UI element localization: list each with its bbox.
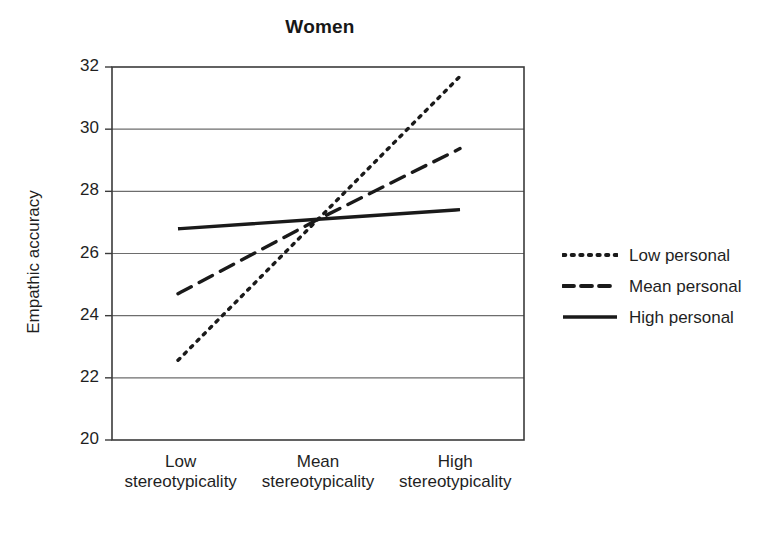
chart-figure: Women Empathic accuracy 32302826242220 L… xyxy=(0,0,777,538)
legend-item[interactable]: Mean personal xyxy=(562,271,741,302)
legend-label: High personal xyxy=(629,308,734,328)
series-line-mean-personal xyxy=(178,149,460,294)
chart-legend: Low personalMean personalHigh personal xyxy=(562,240,741,333)
legend-item[interactable]: High personal xyxy=(562,302,741,333)
legend-swatch-dotted xyxy=(562,254,618,258)
legend-item[interactable]: Low personal xyxy=(562,240,741,271)
legend-label: Low personal xyxy=(629,246,730,266)
legend-label: Mean personal xyxy=(629,277,741,297)
series-line-high-personal xyxy=(178,210,460,229)
legend-swatch-dashed xyxy=(562,285,618,289)
legend-swatch-solid xyxy=(562,316,618,320)
